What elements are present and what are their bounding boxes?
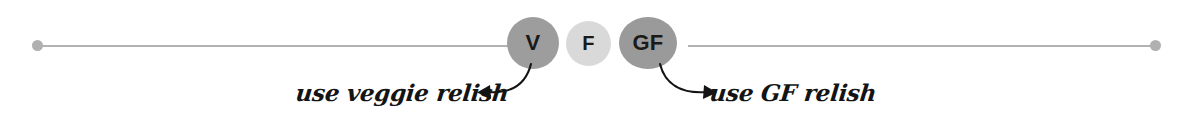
annotation-gf-relish: use GF relish <box>709 79 878 106</box>
arrow-left-icon <box>470 62 540 108</box>
badge-divider-graphic: V F GF use veggie relish use GF relish <box>0 0 1193 125</box>
badge-freezer[interactable]: F <box>566 21 611 66</box>
right-endpoint-dot <box>1150 40 1161 51</box>
divider-line-right <box>688 45 1156 47</box>
left-endpoint-dot <box>32 40 43 51</box>
divider-line-left <box>40 45 508 47</box>
